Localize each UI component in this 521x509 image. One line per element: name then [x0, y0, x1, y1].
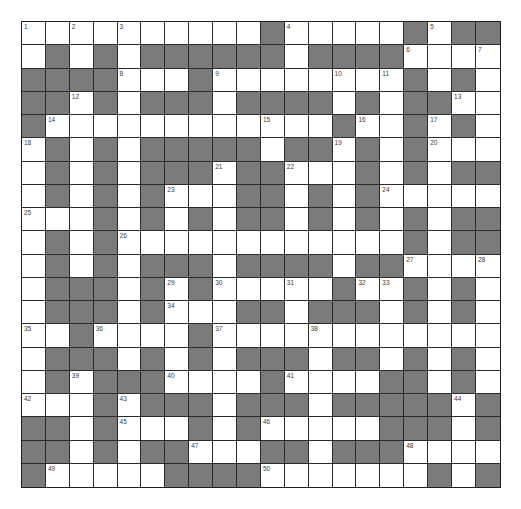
crossword-cell[interactable] [333, 162, 357, 185]
crossword-cell[interactable]: 24 [380, 185, 404, 208]
crossword-cell[interactable] [380, 324, 404, 347]
crossword-cell[interactable]: 26 [118, 231, 142, 254]
crossword-cell[interactable] [22, 185, 46, 208]
crossword-cell[interactable] [309, 348, 333, 371]
crossword-cell[interactable] [309, 464, 333, 487]
crossword-cell[interactable] [118, 348, 142, 371]
crossword-cell[interactable] [189, 301, 213, 324]
crossword-cell[interactable] [476, 185, 500, 208]
crossword-cell[interactable]: 44 [452, 394, 476, 417]
crossword-cell[interactable] [118, 162, 142, 185]
crossword-cell[interactable] [22, 162, 46, 185]
crossword-cell[interactable]: 45 [118, 417, 142, 440]
crossword-cell[interactable]: 11 [380, 69, 404, 92]
crossword-cell[interactable] [309, 417, 333, 440]
crossword-cell[interactable] [285, 417, 309, 440]
crossword-cell[interactable] [428, 231, 452, 254]
crossword-cell[interactable]: 23 [165, 185, 189, 208]
crossword-cell[interactable] [476, 441, 500, 464]
crossword-cell[interactable] [213, 208, 237, 231]
crossword-cell[interactable] [22, 231, 46, 254]
crossword-cell[interactable] [309, 69, 333, 92]
crossword-cell[interactable] [309, 371, 333, 394]
crossword-cell[interactable] [22, 371, 46, 394]
crossword-cell[interactable] [333, 371, 357, 394]
crossword-cell[interactable]: 16 [356, 115, 380, 138]
crossword-cell[interactable] [333, 324, 357, 347]
crossword-cell[interactable] [141, 22, 165, 45]
crossword-cell[interactable] [141, 324, 165, 347]
crossword-cell[interactable] [261, 69, 285, 92]
crossword-cell[interactable] [476, 92, 500, 115]
crossword-cell[interactable]: 32 [356, 278, 380, 301]
crossword-cell[interactable] [118, 138, 142, 161]
crossword-cell[interactable] [261, 324, 285, 347]
crossword-cell[interactable]: 25 [22, 208, 46, 231]
crossword-cell[interactable] [452, 441, 476, 464]
crossword-cell[interactable]: 21 [213, 162, 237, 185]
crossword-cell[interactable] [428, 162, 452, 185]
crossword-cell[interactable]: 15 [261, 115, 285, 138]
crossword-cell[interactable] [213, 441, 237, 464]
crossword-cell[interactable] [428, 301, 452, 324]
crossword-cell[interactable] [118, 255, 142, 278]
crossword-cell[interactable] [189, 115, 213, 138]
crossword-cell[interactable] [213, 394, 237, 417]
crossword-cell[interactable] [476, 324, 500, 347]
crossword-cell[interactable] [428, 441, 452, 464]
crossword-cell[interactable] [118, 115, 142, 138]
crossword-cell[interactable] [380, 162, 404, 185]
crossword-cell[interactable] [46, 208, 70, 231]
crossword-cell[interactable] [237, 69, 261, 92]
crossword-cell[interactable] [141, 69, 165, 92]
crossword-cell[interactable] [476, 348, 500, 371]
crossword-cell[interactable] [380, 208, 404, 231]
crossword-cell[interactable] [476, 278, 500, 301]
crossword-cell[interactable]: 8 [118, 69, 142, 92]
crossword-cell[interactable]: 31 [285, 278, 309, 301]
crossword-cell[interactable] [476, 371, 500, 394]
crossword-cell[interactable] [476, 138, 500, 161]
crossword-cell[interactable] [428, 208, 452, 231]
crossword-cell[interactable] [118, 464, 142, 487]
crossword-cell[interactable]: 49 [46, 464, 70, 487]
crossword-cell[interactable] [141, 231, 165, 254]
crossword-cell[interactable] [118, 301, 142, 324]
crossword-cell[interactable] [70, 45, 94, 68]
crossword-cell[interactable] [189, 231, 213, 254]
crossword-cell[interactable] [309, 394, 333, 417]
crossword-cell[interactable]: 3 [118, 22, 142, 45]
crossword-cell[interactable]: 14 [46, 115, 70, 138]
crossword-cell[interactable] [141, 464, 165, 487]
crossword-cell[interactable] [213, 348, 237, 371]
crossword-cell[interactable] [213, 22, 237, 45]
crossword-cell[interactable] [452, 255, 476, 278]
crossword-cell[interactable]: 13 [452, 92, 476, 115]
crossword-cell[interactable] [237, 278, 261, 301]
crossword-cell[interactable]: 42 [22, 394, 46, 417]
crossword-cell[interactable] [476, 301, 500, 324]
crossword-cell[interactable] [380, 22, 404, 45]
crossword-cell[interactable] [237, 324, 261, 347]
crossword-cell[interactable] [70, 162, 94, 185]
crossword-cell[interactable] [356, 22, 380, 45]
crossword-cell[interactable] [356, 371, 380, 394]
crossword-cell[interactable] [118, 185, 142, 208]
crossword-cell[interactable]: 20 [428, 138, 452, 161]
crossword-cell[interactable] [356, 324, 380, 347]
crossword-cell[interactable] [428, 185, 452, 208]
crossword-cell[interactable] [428, 45, 452, 68]
crossword-cell[interactable] [333, 231, 357, 254]
crossword-cell[interactable] [70, 464, 94, 487]
crossword-cell[interactable] [237, 441, 261, 464]
crossword-cell[interactable] [333, 208, 357, 231]
crossword-cell[interactable]: 46 [261, 417, 285, 440]
crossword-cell[interactable]: 27 [404, 255, 428, 278]
crossword-cell[interactable] [94, 22, 118, 45]
crossword-cell[interactable] [165, 208, 189, 231]
crossword-cell[interactable]: 19 [333, 138, 357, 161]
crossword-cell[interactable]: 41 [285, 371, 309, 394]
crossword-cell[interactable]: 6 [404, 45, 428, 68]
crossword-cell[interactable] [70, 231, 94, 254]
crossword-cell[interactable]: 17 [428, 115, 452, 138]
